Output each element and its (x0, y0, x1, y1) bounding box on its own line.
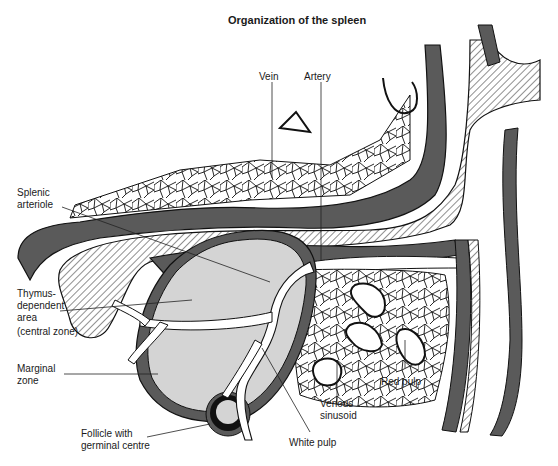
venous-sinusoid-top-2 (383, 78, 417, 113)
venous-sinusoid-top-1 (280, 112, 310, 132)
label-line: Marginal (17, 363, 55, 375)
leader-follicle (147, 424, 210, 437)
red-pulp-top (70, 95, 410, 218)
diagram-title: Organization of the spleen (228, 14, 366, 26)
label-follicle: Follicle with germinal centre (81, 428, 150, 452)
label-line: arteriole (17, 199, 53, 211)
label-artery: Artery (304, 71, 331, 83)
label-vein: Vein (259, 71, 278, 83)
label-line: dependent (17, 300, 78, 312)
label-line: zone (17, 375, 55, 387)
label-line: Splenic (17, 187, 53, 199)
label-splenic-arteriole: Splenic arteriole (17, 187, 53, 211)
label-thymus-dependent-area: Thymus- dependent area (central zone) (17, 288, 78, 338)
label-line: (central zone) (17, 326, 78, 338)
label-line: Follicle with (81, 428, 150, 440)
label-line: Thymus- (17, 288, 78, 300)
label-white-pulp: White pulp (289, 437, 336, 449)
label-line: germinal centre (81, 440, 150, 452)
label-marginal-zone: Marginal zone (17, 363, 55, 387)
label-red-pulp: Red pulp (381, 376, 421, 388)
label-venous-sinusoid: Venous sinusoid (320, 398, 357, 422)
label-line: sinusoid (320, 410, 357, 422)
label-line: area (17, 312, 78, 324)
label-line: Venous (320, 398, 357, 410)
spleen-diagram (0, 0, 558, 466)
right-outer-vessel (490, 128, 522, 436)
